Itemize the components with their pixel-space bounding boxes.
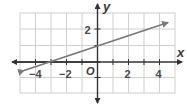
y-tick-label: 2	[85, 24, 91, 36]
x-tick-label: −2	[59, 68, 72, 80]
y-axis-label: y	[102, 0, 111, 14]
coordinate-plane: −4 −2 2 4 2 O x y	[0, 0, 187, 107]
x-tick-label: 2	[125, 68, 131, 80]
x-axis-label: x	[176, 45, 185, 60]
x-tick-label: 4	[156, 68, 163, 80]
x-tick-label: −4	[29, 68, 42, 80]
origin-label: O	[86, 65, 95, 77]
